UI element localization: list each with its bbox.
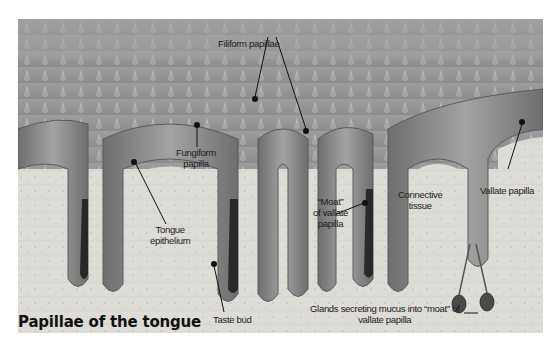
label-line: Glands secreting mucus into “moat” of (310, 303, 459, 314)
label-line: tissue (398, 200, 443, 211)
label-glands: Glands secreting mucus into “moat” of va… (310, 303, 459, 325)
label-line: papilla (313, 218, 348, 229)
label-filiform-papillae: Filiform papillae (218, 38, 279, 49)
label-line: “Moat” (313, 196, 348, 207)
label-line: papilla (176, 158, 216, 169)
figure-title: Papillae of the tongue (18, 313, 201, 331)
label-taste-bud: Taste bud (213, 314, 252, 325)
label-tongue-epithelium: Tongue epithelium (150, 224, 190, 246)
label-vallate-papilla: Vallate papilla (480, 185, 534, 196)
label-line: Fungiform (176, 147, 216, 158)
label-connective-tissue: Connective tissue (398, 189, 443, 211)
label-line: vallate papilla (310, 314, 459, 325)
papillae-cross-section (18, 19, 543, 333)
label-fungiform-papilla: Fungiform papilla (176, 147, 216, 169)
label-line: epithelium (150, 235, 190, 246)
label-line: Tongue (150, 224, 190, 235)
label-line: of vallate (313, 207, 348, 218)
label-line: Connective (398, 189, 443, 200)
tongue-papillae-illustration: Filiform papillae Fungiform papilla Tong… (18, 19, 543, 333)
label-moat: “Moat” of vallate papilla (313, 196, 348, 229)
